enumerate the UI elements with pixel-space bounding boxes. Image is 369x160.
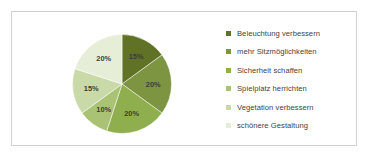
chart-legend: Beleuchtung verbessernmehr Sitzmöglichke… <box>226 24 356 136</box>
legend-item[interactable]: Beleuchtung verbessern <box>226 24 356 43</box>
legend-item[interactable]: schönere Gestaltung <box>226 117 356 136</box>
pie-slice-value-label: 20% <box>146 80 161 89</box>
legend-item-label: Beleuchtung verbessern <box>237 29 320 38</box>
pie-slice-value-label: 20% <box>96 54 111 63</box>
legend-color-swatch <box>226 31 231 36</box>
chart-frame: 15%20%20%10%15%20% Beleuchtung verbesser… <box>11 11 357 146</box>
legend-item[interactable]: Vegetation verbessern <box>226 98 356 117</box>
legend-item[interactable]: mehr Sitzmöglichkeiten <box>226 43 356 62</box>
legend-item[interactable]: Sicherheit schaffen <box>226 61 356 80</box>
legend-item-label: Sicherheit schaffen <box>237 66 302 75</box>
pie-chart-svg: 15%20%20%10%15%20% <box>72 34 172 134</box>
legend-color-swatch <box>226 86 231 91</box>
pie-slice-value-label: 20% <box>124 109 139 118</box>
legend-item-label: schönere Gestaltung <box>237 121 308 130</box>
legend-item-label: Vegetation verbessern <box>237 103 314 112</box>
pie-slice-value-label: 15% <box>84 84 99 93</box>
legend-item[interactable]: Spielplatz herrichten <box>226 80 356 99</box>
legend-color-swatch <box>226 49 231 54</box>
legend-item-label: Spielplatz herrichten <box>237 84 307 93</box>
legend-color-swatch <box>226 68 231 73</box>
legend-color-swatch <box>226 105 231 110</box>
legend-color-swatch <box>226 123 231 128</box>
pie-slice-value-label: 15% <box>129 52 144 61</box>
pie-slice-value-label: 10% <box>96 105 111 114</box>
legend-item-label: mehr Sitzmöglichkeiten <box>237 47 317 56</box>
pie-chart: 15%20%20%10%15%20% <box>72 34 172 134</box>
